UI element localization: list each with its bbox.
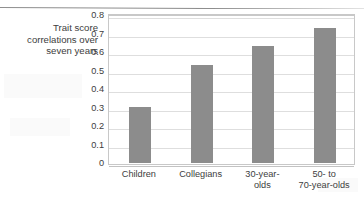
y-axis-tick-label: 0.2 <box>76 122 104 131</box>
y-axis-tick-label: 0.4 <box>76 85 104 94</box>
bar <box>314 28 336 163</box>
x-axis-category-label-line: 70-year-olds <box>281 180 364 191</box>
y-axis-tick-label: 0.8 <box>76 11 104 20</box>
bar <box>252 46 274 163</box>
top-horizontal-rule <box>0 6 364 9</box>
bar-chart-figure: Trait score correlations over seven year… <box>0 0 364 201</box>
y-axis-tick-label: 0.1 <box>76 141 104 150</box>
x-axis-category-label-line: 50- to <box>281 169 364 180</box>
y-axis-tick-label: 0.7 <box>76 30 104 39</box>
scan-artifact <box>10 118 70 136</box>
gridline <box>109 166 354 167</box>
bar-series <box>109 16 354 164</box>
y-axis-tick-label: 0.3 <box>76 104 104 113</box>
bar <box>191 65 213 163</box>
y-axis-tick-labels: 0.80.70.60.50.40.30.20.10 <box>76 14 104 165</box>
y-axis-tick-label: 0.6 <box>76 48 104 57</box>
scan-artifact <box>4 74 82 98</box>
rule-line <box>0 7 364 9</box>
x-axis-category-label: 50- to70-year-olds <box>281 169 364 191</box>
bar <box>129 107 151 163</box>
plot-area <box>108 14 355 165</box>
x-axis-category-labels: ChildrenCollegians30-year-olds50- to70-y… <box>108 169 355 201</box>
y-axis-tick-label: 0.5 <box>76 67 104 76</box>
y-axis-tick-label: 0 <box>76 159 104 168</box>
